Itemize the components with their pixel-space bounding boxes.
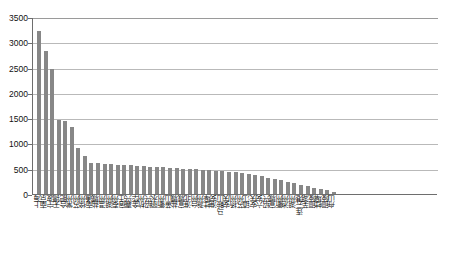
bar (234, 172, 238, 194)
bar (214, 171, 218, 194)
bar (194, 169, 198, 194)
y-axis-tick-label: 3500 (0, 14, 28, 22)
bar (44, 51, 48, 194)
bar (227, 172, 231, 194)
bar (89, 163, 93, 194)
bar (220, 171, 224, 194)
bar (260, 176, 264, 194)
bar (332, 192, 336, 194)
y-axis-tick-label: 500 (0, 166, 28, 174)
bar (103, 164, 107, 194)
bar (161, 167, 165, 194)
bar (57, 120, 61, 194)
bar (109, 164, 113, 194)
bar (279, 180, 283, 194)
bar (286, 182, 290, 194)
bar (142, 166, 146, 194)
bar (129, 165, 133, 194)
y-axis-tick-label: 0 (0, 191, 28, 199)
bar (201, 170, 205, 194)
bar (50, 69, 54, 194)
bar-series (33, 18, 438, 194)
bar (83, 156, 87, 194)
y-axis-tick-label: 1000 (0, 140, 28, 148)
bar (63, 121, 67, 194)
bar (312, 188, 316, 194)
bar (37, 31, 41, 194)
bar (253, 175, 257, 194)
bar (181, 169, 185, 194)
y-axis-tick-label: 2000 (0, 90, 28, 98)
y-axis-tick-label: 1500 (0, 115, 28, 123)
bar (76, 148, 80, 194)
y-axis-tick-label: 2500 (0, 65, 28, 73)
bar (122, 165, 126, 194)
y-axis-tick-label: 3000 (0, 39, 28, 47)
bar (155, 167, 159, 194)
bar (319, 189, 323, 194)
plot-area (32, 18, 437, 195)
x-axis-category-labels: 上海南京宁波无锡合肥常州苏州徐州南通盐城温州湖州泰州宿迁嘉兴金华杭州绍兴丽水衢州… (32, 196, 437, 259)
bar (116, 165, 120, 194)
bar (240, 173, 244, 194)
bar (96, 163, 100, 194)
bar (306, 186, 310, 194)
bar (266, 178, 270, 194)
bar (168, 168, 172, 194)
bar (292, 183, 296, 194)
bar (247, 174, 251, 194)
bar (273, 179, 277, 194)
bar (148, 167, 152, 194)
bar (175, 168, 179, 194)
bar (207, 170, 211, 194)
bar (70, 127, 74, 194)
bar (299, 185, 303, 194)
bar (135, 166, 139, 194)
chart-container: 0500100015002000250030003500 上海南京宁波无锡合肥常… (0, 0, 454, 259)
bar (325, 190, 329, 194)
bar (188, 169, 192, 194)
x-axis-category-label: 舟山 (328, 196, 339, 209)
